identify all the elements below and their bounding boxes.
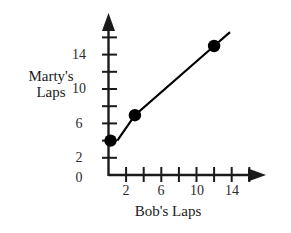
y-tick-label-6: 6 [64, 117, 94, 131]
x-axis-arrowhead-icon [248, 169, 266, 182]
x-tick-label-10: 10 [184, 184, 210, 198]
y-axis-title-line-2: Laps [12, 84, 90, 100]
x-tick-label-6: 6 [149, 184, 173, 198]
y-axis-arrowhead-icon [102, 13, 115, 31]
y-axis-title-line-1: Marty's [12, 68, 90, 84]
x-tick-label-2: 2 [114, 184, 138, 198]
y-tick-label-0: 0 [64, 171, 94, 185]
data-line-series-1 [117, 46, 214, 141]
chart-figure: 14 10 6 2 0 2 6 10 14 Marty's Laps Bob's… [0, 0, 291, 233]
data-point-1 [104, 134, 116, 146]
x-axis-title: Bob's Laps [108, 203, 228, 219]
y-tick-label-14: 14 [64, 48, 94, 62]
data-point-2 [129, 109, 141, 121]
data-point-3 [208, 40, 220, 52]
y-axis-title: Marty's Laps [12, 68, 90, 100]
x-tick-label-14: 14 [219, 184, 245, 198]
y-tick-label-2: 2 [64, 151, 94, 165]
line-chart-plot [0, 0, 291, 233]
